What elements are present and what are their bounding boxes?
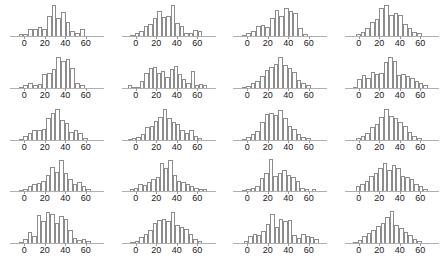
axis-tick-label: 0 — [22, 193, 27, 204]
axis-tick-label: 40 — [172, 193, 182, 204]
axis-tick-label: 20 — [151, 193, 161, 204]
axis-tick-label: 20 — [374, 90, 384, 101]
plot-area — [128, 159, 210, 191]
axis-tick-label: 40 — [395, 193, 405, 204]
histogram-panel: 0204060 — [335, 52, 446, 104]
x-axis-tick-labels: 0204060 — [128, 142, 210, 154]
plot-area — [128, 211, 210, 243]
panel-grid: 0204060020406002040600204060020406002040… — [0, 0, 446, 259]
axis-tick-label: 60 — [81, 193, 91, 204]
x-axis-tick-labels: 0204060 — [351, 245, 433, 257]
histogram-panel: 0204060 — [0, 104, 112, 156]
axis-tick-label: 40 — [60, 193, 70, 204]
x-axis-tick-labels: 0204060 — [351, 90, 433, 102]
histogram-bars — [16, 211, 98, 243]
histogram-panel: 0204060 — [0, 0, 112, 52]
axis-tick-label: 20 — [263, 193, 273, 204]
x-axis-tick-labels: 0204060 — [16, 193, 98, 205]
x-axis-tick-labels: 0204060 — [239, 142, 321, 154]
axis-tick-label: 60 — [192, 142, 202, 153]
x-axis-tick-labels: 0204060 — [351, 142, 433, 154]
histogram-panel: 0204060 — [335, 104, 446, 156]
axis-tick-label: 60 — [81, 245, 91, 256]
x-axis-tick-labels: 0204060 — [239, 193, 321, 205]
plot-area — [16, 108, 98, 140]
axis-tick-label: 0 — [133, 38, 138, 49]
x-axis-tick-labels: 0204060 — [128, 245, 210, 257]
axis-tick-label: 60 — [415, 142, 425, 153]
axis-tick-label: 0 — [245, 38, 250, 49]
histogram-panel: 0204060 — [223, 0, 335, 52]
histogram-bars — [351, 108, 433, 140]
histogram-panel: 0204060 — [0, 52, 112, 104]
axis-tick-label: 60 — [192, 193, 202, 204]
axis-tick-label: 20 — [374, 38, 384, 49]
axis-tick-label: 60 — [415, 38, 425, 49]
plot-area — [128, 56, 210, 88]
x-axis-tick-labels: 0204060 — [128, 193, 210, 205]
histogram-panel: 0204060 — [112, 207, 224, 259]
axis-tick-label: 60 — [304, 193, 314, 204]
axis-tick-label: 0 — [245, 245, 250, 256]
axis-tick-label: 20 — [263, 245, 273, 256]
axis-tick-label: 20 — [374, 245, 384, 256]
histogram-panel: 0204060 — [223, 104, 335, 156]
histogram-bars — [128, 159, 210, 191]
axis-tick-label: 40 — [283, 38, 293, 49]
histogram-panel: 0204060 — [335, 0, 446, 52]
histogram-bars — [351, 4, 433, 36]
x-axis-tick-labels: 0204060 — [16, 245, 98, 257]
axis-tick-label: 60 — [415, 193, 425, 204]
plot-area — [351, 108, 433, 140]
axis-tick-label: 0 — [245, 193, 250, 204]
axis-tick-label: 40 — [60, 90, 70, 101]
axis-tick-label: 20 — [40, 245, 50, 256]
histogram-bars — [351, 211, 433, 243]
x-axis-tick-labels: 0204060 — [351, 38, 433, 50]
plot-area — [16, 4, 98, 36]
plot-area — [351, 56, 433, 88]
histogram-panel: 0204060 — [112, 0, 224, 52]
axis-tick-label: 40 — [395, 38, 405, 49]
axis-tick-label: 20 — [151, 38, 161, 49]
histogram-bars — [128, 4, 210, 36]
histogram-bars — [16, 159, 98, 191]
histogram-bars — [128, 211, 210, 243]
histogram-panel: 0204060 — [223, 52, 335, 104]
x-axis-tick-labels: 0204060 — [239, 38, 321, 50]
axis-tick-label: 0 — [22, 142, 27, 153]
axis-tick-label: 20 — [263, 38, 273, 49]
axis-tick-label: 40 — [395, 90, 405, 101]
histogram-bars — [16, 4, 98, 36]
axis-tick-label: 0 — [356, 38, 361, 49]
axis-tick-label: 0 — [22, 245, 27, 256]
axis-tick-label: 60 — [192, 38, 202, 49]
plot-area — [239, 56, 321, 88]
histogram-bars — [16, 108, 98, 140]
histogram-panel: 0204060 — [112, 155, 224, 207]
plot-area — [351, 4, 433, 36]
axis-tick-label: 0 — [356, 90, 361, 101]
histogram-panel: 0204060 — [112, 104, 224, 156]
axis-tick-label: 20 — [151, 245, 161, 256]
x-axis-tick-labels: 0204060 — [16, 142, 98, 154]
plot-area — [128, 4, 210, 36]
histogram-bars — [239, 159, 321, 191]
plot-area — [128, 108, 210, 140]
axis-tick-label: 40 — [60, 245, 70, 256]
axis-tick-label: 40 — [172, 245, 182, 256]
axis-tick-label: 0 — [22, 38, 27, 49]
histogram-bars — [128, 56, 210, 88]
axis-tick-label: 60 — [304, 142, 314, 153]
histogram-panel: 0204060 — [223, 155, 335, 207]
axis-tick-label: 0 — [245, 142, 250, 153]
histogram-panel: 0204060 — [112, 52, 224, 104]
axis-tick-label: 40 — [172, 38, 182, 49]
histogram-bars — [351, 159, 433, 191]
axis-tick-label: 20 — [40, 90, 50, 101]
plot-area — [239, 211, 321, 243]
axis-tick-label: 0 — [133, 193, 138, 204]
axis-tick-label: 40 — [283, 245, 293, 256]
x-axis-tick-labels: 0204060 — [239, 245, 321, 257]
axis-tick-label: 0 — [356, 245, 361, 256]
